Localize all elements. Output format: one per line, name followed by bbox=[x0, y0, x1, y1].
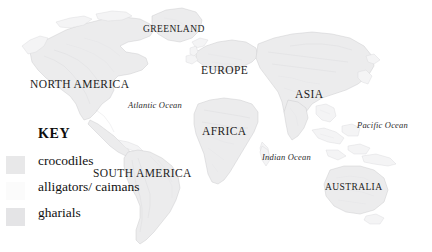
africa-landmass bbox=[194, 98, 270, 184]
map-label-asia: ASIA bbox=[295, 88, 323, 100]
legend-item-alligators-caimans: alligators/ caimans bbox=[0, 178, 200, 204]
map-label-europe: EUROPE bbox=[201, 64, 248, 76]
north-america-landmass bbox=[22, 11, 154, 132]
map-label-pacific-ocean: Pacific Ocean bbox=[357, 120, 408, 130]
map-label-australia: AUSTRALIA bbox=[325, 182, 382, 192]
legend-label-alligators-caimans: alligators/ caimans bbox=[38, 179, 140, 195]
map-label-greenland: GREENLAND bbox=[143, 24, 205, 34]
legend-title: KEY bbox=[38, 126, 70, 142]
world-map: GREENLAND NORTH AMERICA EUROPE ASIA AFRI… bbox=[0, 0, 432, 252]
legend-item-crocodiles: crocodiles bbox=[0, 152, 200, 178]
southeast-asia-landmass bbox=[312, 104, 370, 160]
alligators-caimans-swatch bbox=[6, 182, 25, 200]
new-guinea-landmass bbox=[362, 154, 396, 166]
map-label-indian-ocean: Indian Ocean bbox=[262, 152, 311, 162]
legend-label-gharials: gharials bbox=[38, 205, 81, 221]
legend-label-crocodiles: crocodiles bbox=[38, 153, 93, 169]
australia-landmass bbox=[324, 166, 388, 224]
map-label-north-america: NORTH AMERICA bbox=[30, 78, 129, 90]
crocodiles-swatch bbox=[6, 156, 25, 174]
gharials-swatch bbox=[6, 208, 25, 226]
legend-item-gharials: gharials bbox=[0, 204, 200, 230]
asia-landmass bbox=[256, 32, 374, 122]
map-label-atlantic-ocean: Atlantic Ocean bbox=[128, 100, 182, 110]
map-label-africa: AFRICA bbox=[202, 125, 247, 137]
